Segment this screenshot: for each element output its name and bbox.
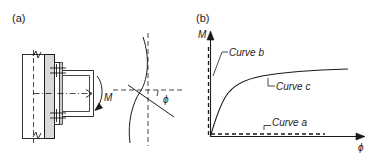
panel-b: (b) M ϕ Curve a Curve b C bbox=[196, 12, 365, 153]
curve-c-label: Curve c bbox=[276, 81, 310, 92]
panel-a: (a) bbox=[12, 12, 184, 146]
curve-a-label: Curve a bbox=[272, 117, 307, 128]
curve-a-leader bbox=[264, 126, 271, 131]
rotation-angle-label: ϕ bbox=[163, 94, 169, 105]
curve-c-leader bbox=[268, 78, 275, 86]
moment-arrow: M bbox=[95, 76, 113, 111]
panel-b-label: (b) bbox=[196, 12, 209, 24]
series-curve-b: Curve b bbox=[209, 44, 265, 135]
curve-b-label: Curve b bbox=[229, 47, 264, 58]
series-curve-a: Curve a bbox=[211, 117, 325, 134]
curve-b-leader bbox=[213, 52, 228, 76]
panel-a-label: (a) bbox=[12, 12, 25, 24]
column-web bbox=[45, 55, 55, 139]
moment-arrow-head bbox=[95, 103, 103, 111]
figure-root: (a) bbox=[0, 0, 376, 163]
x-axis-arrowhead bbox=[356, 133, 365, 140]
y-axis: M bbox=[198, 29, 214, 137]
moment-label: M bbox=[104, 92, 113, 103]
y-axis-arrowhead bbox=[207, 31, 214, 40]
rotation-angle-arc bbox=[157, 90, 158, 96]
deformed-joint-sketch: ϕ bbox=[113, 33, 184, 146]
x-axis: ϕ bbox=[211, 133, 366, 153]
y-axis-label: M bbox=[198, 29, 207, 40]
x-axis-label: ϕ bbox=[358, 142, 364, 153]
column-section bbox=[23, 50, 55, 143]
